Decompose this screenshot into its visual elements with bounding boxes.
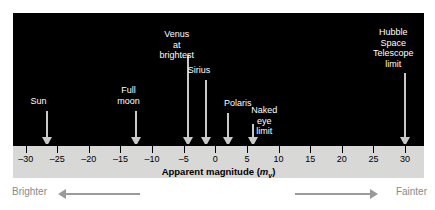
axis-tick xyxy=(26,146,27,153)
magnitude-scale-panel: SunFull moonVenus at brightestSiriusPola… xyxy=(13,13,424,144)
axis-tick-label: –30 xyxy=(11,154,41,164)
marker-label: Full moon xyxy=(117,85,140,106)
marker-arrow-shaft xyxy=(135,111,137,137)
apparent-magnitude-figure: SunFull moonVenus at brightestSiriusPola… xyxy=(0,0,435,210)
marker-label: Venus at brightest xyxy=(160,29,195,61)
axis-tick-label: 30 xyxy=(390,154,420,164)
axis-tick xyxy=(120,146,121,153)
axis-tick xyxy=(89,146,90,153)
axis-tick xyxy=(247,146,248,153)
axis-title-main: Apparent magnitude ( xyxy=(162,166,260,177)
marker-label: Polaris xyxy=(224,98,252,109)
axis-tick xyxy=(342,146,343,153)
marker-label: Sun xyxy=(31,96,47,107)
axis-tick xyxy=(310,146,311,153)
marker-arrow-icon xyxy=(400,137,410,144)
axis-tick-label: –25 xyxy=(42,154,72,164)
axis-tick-label: 5 xyxy=(232,154,262,164)
axis-tick-label: –10 xyxy=(137,154,167,164)
axis-tick-label: 0 xyxy=(200,154,230,164)
axis-tick xyxy=(215,146,216,153)
marker-arrow-icon xyxy=(201,137,211,144)
marker-arrow-shaft xyxy=(404,73,406,137)
axis-tick-label: 15 xyxy=(295,154,325,164)
axis-tick xyxy=(373,146,374,153)
axis-tick-label: –20 xyxy=(74,154,104,164)
fainter-label: Fainter xyxy=(396,186,427,197)
marker-label: Naked eye limit xyxy=(251,105,277,137)
marker-arrow-icon xyxy=(42,137,52,144)
axis-title-symbol: m xyxy=(260,166,268,177)
marker-arrow-icon xyxy=(183,137,193,144)
marker-arrow-icon xyxy=(223,137,233,144)
axis-tick-label: 10 xyxy=(264,154,294,164)
marker-arrow-shaft xyxy=(227,113,229,137)
brighter-label: Brighter xyxy=(12,186,47,197)
fainter-arrow-line xyxy=(295,193,370,195)
marker-label: Sirius xyxy=(188,65,211,76)
axis-tick-label: –15 xyxy=(105,154,135,164)
axis-line xyxy=(13,144,424,146)
axis-tick-label: –5 xyxy=(169,154,199,164)
axis-tick xyxy=(184,146,185,153)
axis-tick-label: 25 xyxy=(358,154,388,164)
axis-tick xyxy=(152,146,153,153)
marker-arrow-shaft xyxy=(205,80,207,137)
axis-tick xyxy=(405,146,406,153)
axis-title: Apparent magnitude (mv) xyxy=(13,166,424,179)
marker-label: Hubble Space Telescope limit xyxy=(373,27,414,69)
brighter-arrow-line xyxy=(65,193,140,195)
marker-arrow-icon xyxy=(248,137,258,144)
marker-arrow-shaft xyxy=(46,111,48,137)
fainter-arrow-icon xyxy=(370,189,378,199)
marker-arrow-icon xyxy=(131,137,141,144)
axis-tick xyxy=(57,146,58,153)
axis-tick-label: 20 xyxy=(327,154,357,164)
direction-row: Brighter Fainter xyxy=(0,186,435,206)
axis-title-close: ) xyxy=(272,166,275,177)
axis-tick xyxy=(279,146,280,153)
